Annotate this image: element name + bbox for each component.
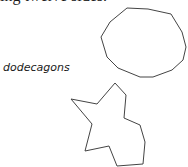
irregular-dodecagon-shape	[71, 83, 145, 166]
regular-dodecagon-shape	[101, 8, 186, 77]
dodecagon-figure	[0, 0, 188, 167]
